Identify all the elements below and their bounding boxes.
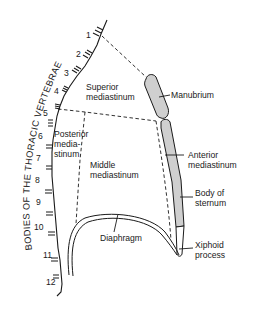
label-superior-mediastinum: Superior mediastinum: [86, 82, 135, 102]
vertebra-8: 8: [35, 175, 40, 185]
label-posterior-line2: media-: [54, 139, 80, 149]
label-anterior-line2: mediastinum: [188, 160, 237, 170]
label-anterior-mediastinum: Anterior mediastinum: [188, 150, 237, 170]
vertebra-2: 2: [76, 49, 81, 59]
vertebra-12: 12: [46, 277, 56, 287]
label-middle-line2: mediastinum: [90, 170, 139, 180]
label-sternum-line2: sternum: [195, 198, 226, 208]
label-manubrium: Manubrium: [171, 90, 214, 100]
vertebra-4: 4: [54, 86, 59, 96]
label-xiphoid-line2: process: [195, 250, 225, 260]
label-diaphragm: Diaphragm: [100, 233, 142, 243]
boundary-superior-top: [102, 36, 146, 77]
vertebra-9: 9: [36, 197, 41, 207]
label-sternum-line1: Body of: [195, 188, 225, 198]
label-superior-line2: mediastinum: [86, 92, 135, 102]
label-posterior-line1: Posterior: [54, 129, 89, 139]
label-posterior-line3: stinum: [54, 149, 79, 159]
label-superior-line1: Superior: [86, 82, 119, 92]
label-anterior-line1: Anterior: [188, 150, 218, 160]
mediastinum-diagram: 1 2 3 4 5 6 7 8 9 10 11 12 BODIES OF THE…: [0, 0, 254, 319]
label-middle-mediastinum: Middle mediastinum: [90, 160, 139, 180]
label-posterior-mediastinum: Posterior media- stinum: [54, 129, 91, 159]
label-xiphoid-process: Xiphoid process: [195, 240, 226, 260]
vertebra-1: 1: [86, 30, 91, 40]
vertebra-7: 7: [36, 153, 41, 163]
label-middle-line1: Middle: [90, 160, 116, 170]
sternum-body-shape: [161, 119, 184, 227]
vertebra-10: 10: [34, 222, 44, 232]
diaphragm-shape: [68, 214, 179, 276]
boundary-superior-inferior: [58, 109, 156, 121]
vertebra-3: 3: [64, 68, 69, 78]
leader-diaphragm: [114, 214, 118, 232]
vertebra-11: 11: [43, 250, 52, 260]
label-body-of-sternum: Body of sternum: [195, 188, 227, 208]
label-xiphoid-line1: Xiphoid: [195, 240, 224, 250]
manubrium-shape: [145, 75, 169, 119]
